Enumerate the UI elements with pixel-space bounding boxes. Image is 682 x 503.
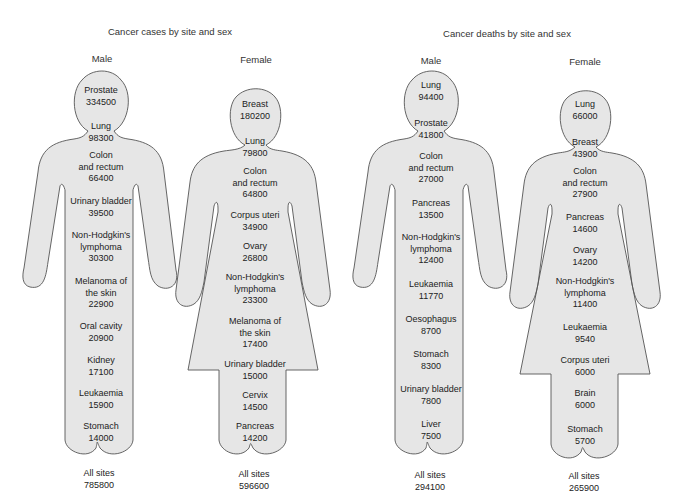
site-label: Pancreas14600 bbox=[530, 212, 640, 235]
site-label: Prostate334500 bbox=[46, 85, 156, 108]
site-label: Leukaemia11770 bbox=[376, 279, 486, 302]
site-label: Urinary bladder39500 bbox=[46, 196, 156, 219]
site-label: Non-Hodgkin'slymphoma11400 bbox=[530, 276, 640, 311]
site-label: Colonand rectum27000 bbox=[376, 151, 486, 186]
site-label: Prostate41800 bbox=[376, 118, 486, 141]
site-label: Non-Hodgkin'slymphoma23300 bbox=[200, 272, 310, 307]
all-sites-total: All sites596600 bbox=[209, 469, 299, 492]
site-label: Lung98300 bbox=[46, 121, 156, 144]
site-label: Ovary26800 bbox=[200, 241, 310, 264]
site-label: Pancreas13500 bbox=[376, 198, 486, 221]
site-label: Liver7500 bbox=[376, 419, 486, 442]
site-label: Colonand rectum66400 bbox=[46, 150, 156, 185]
site-label: Brain6000 bbox=[530, 388, 640, 411]
site-label: Non-Hodgkin'slymphoma30300 bbox=[46, 230, 156, 265]
site-label: Corpus uteri6000 bbox=[530, 355, 640, 378]
site-label: Stomach8300 bbox=[376, 349, 486, 372]
site-label: Non-Hodgkin'slymphoma12400 bbox=[376, 232, 486, 267]
site-label: Kidney17100 bbox=[46, 355, 156, 378]
site-label: Urinary bladder15000 bbox=[200, 359, 310, 382]
site-label: Lung66000 bbox=[530, 99, 640, 122]
site-label: Cervix14500 bbox=[200, 390, 310, 413]
site-label: Ovary14200 bbox=[530, 245, 640, 268]
site-label: Leukaemia9540 bbox=[530, 322, 640, 345]
site-label: Urinary bladder7800 bbox=[376, 384, 486, 407]
site-label: Melanoma ofthe skin22900 bbox=[46, 276, 156, 311]
site-label: Oesophagus8700 bbox=[376, 314, 486, 337]
site-label: Pancreas14200 bbox=[200, 421, 310, 444]
site-label: Colonand rectum27900 bbox=[530, 166, 640, 201]
site-label: Stomach5700 bbox=[530, 424, 640, 447]
site-label: Lung94400 bbox=[376, 80, 486, 103]
all-sites-total: All sites294100 bbox=[385, 470, 475, 493]
site-label: Melanoma ofthe skin17400 bbox=[200, 316, 310, 351]
site-label: Stomach14000 bbox=[46, 421, 156, 444]
site-label: Oral cavity20900 bbox=[46, 321, 156, 344]
all-sites-total: All sites785800 bbox=[54, 468, 144, 491]
site-label: Colonand rectum64800 bbox=[200, 166, 310, 201]
site-label: Breast180200 bbox=[200, 99, 310, 122]
site-label: Corpus uteri34900 bbox=[200, 210, 310, 233]
site-label: Lung79800 bbox=[200, 136, 310, 159]
site-label: Breast43900 bbox=[530, 137, 640, 160]
site-label: Leukaemia15900 bbox=[46, 388, 156, 411]
all-sites-total: All sites265900 bbox=[539, 471, 629, 494]
